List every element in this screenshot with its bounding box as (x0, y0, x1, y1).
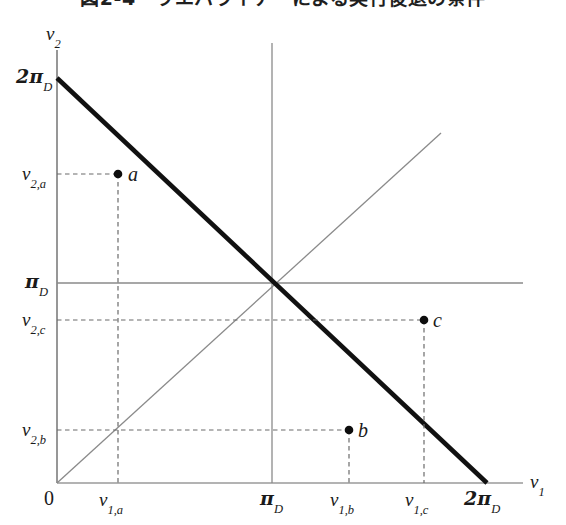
point-c-label: c (433, 310, 442, 330)
y-tick-v2c: v2,c (22, 310, 45, 329)
y-tick-piD: πD (25, 272, 48, 291)
x-tick-piD: πD (260, 489, 283, 508)
y-tick-v2a: v2,a (22, 164, 46, 183)
x-tick-v1a: v1,a (99, 490, 123, 509)
x-tick-origin: 0 (44, 488, 54, 508)
x-tick-v1c: v1,c (405, 490, 428, 509)
x-tick-2piD: 2πD (464, 489, 500, 508)
y-axis-label: v2 (46, 24, 61, 43)
point-a-marker[interactable] (114, 170, 123, 179)
point-b-marker[interactable] (345, 426, 354, 435)
y-tick-v2b: v2,b (22, 420, 46, 439)
point-b-label: b (358, 420, 368, 440)
figure-container: 図2-4 ウエハライナーによる実行後退の条件 v2 v1 2πD (0, 0, 566, 525)
point-c-marker[interactable] (420, 316, 429, 325)
x-axis-label: v1 (530, 472, 545, 491)
x-tick-v1b: v1,b (330, 490, 354, 509)
point-a-label: a (128, 164, 138, 184)
y-tick-2piD: 2πD (16, 67, 52, 86)
plot-canvas (0, 0, 566, 525)
